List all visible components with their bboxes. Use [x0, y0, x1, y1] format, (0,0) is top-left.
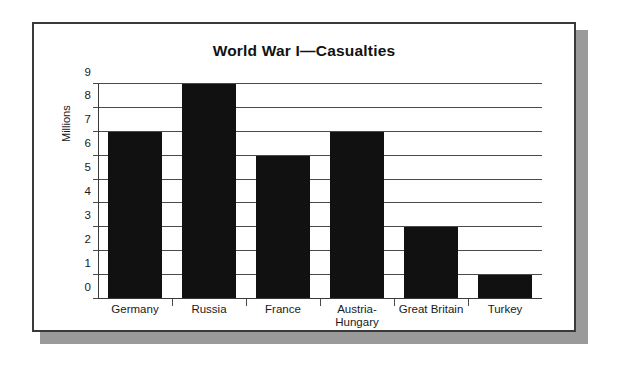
y-tick-label: 6 — [85, 138, 91, 150]
x-axis-label: Turkey — [468, 303, 542, 329]
bar — [478, 275, 531, 299]
bar-slot — [394, 84, 468, 299]
x-axis-label: Great Britain — [394, 303, 468, 329]
y-tick-label: 7 — [85, 115, 91, 127]
bar — [182, 84, 235, 299]
bar-slot — [468, 84, 542, 299]
bar — [330, 132, 383, 299]
x-axis-spine — [98, 298, 542, 299]
bar-slot — [246, 84, 320, 299]
y-axis-spine — [98, 84, 99, 299]
bar — [256, 156, 309, 299]
chart-title: World War I—Casualties — [34, 42, 574, 60]
y-tick-label: 8 — [85, 91, 91, 103]
y-tick-label: 5 — [85, 162, 91, 174]
bar-slot — [172, 84, 246, 299]
y-tick-label: 2 — [85, 234, 91, 246]
bar-slot — [98, 84, 172, 299]
bar — [108, 132, 161, 299]
x-axis-label: France — [246, 303, 320, 329]
x-axis-labels-group: GermanyRussiaFranceAustria-HungaryGreat … — [98, 303, 542, 329]
bar — [404, 227, 457, 299]
x-axis-label: Germany — [98, 303, 172, 329]
y-tick-label: 9 — [85, 67, 91, 79]
y-axis-label: Millions — [60, 105, 72, 142]
y-tick-label: 4 — [85, 186, 91, 198]
figure-frame: World War I—Casualties Millions 01234567… — [32, 22, 576, 332]
plot-area: 0123456789 — [98, 84, 542, 299]
bar-slot — [320, 84, 394, 299]
y-tick-label: 3 — [85, 210, 91, 222]
x-axis-label: Austria-Hungary — [320, 303, 394, 329]
x-axis-label: Russia — [172, 303, 246, 329]
bars-group — [98, 84, 542, 299]
y-tick-label: 1 — [85, 258, 91, 270]
y-tick-label: 0 — [85, 282, 91, 294]
